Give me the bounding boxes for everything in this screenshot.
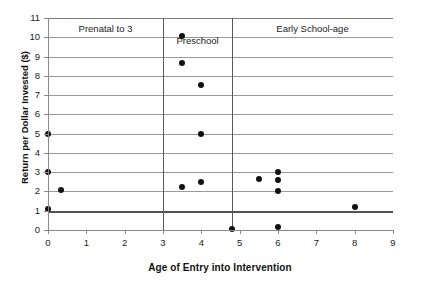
data-point [275,177,281,183]
reference-line-breakeven [48,211,393,213]
region-label-early-school-age: Early School-age [276,24,348,34]
y-tick-mark-8 [44,76,48,77]
y-tick-mark-3 [44,172,48,173]
data-point [352,204,358,210]
x-tick-mark-6 [278,230,279,234]
plot-area: Prenatal to 3PreschoolEarly School-age [48,18,393,230]
y-axis-title: Return per Dollar Invested ($) [19,38,30,198]
y-tick-mark-6 [44,114,48,115]
data-point [179,60,185,66]
y-tick-mark-4 [44,153,48,154]
x-tick-label-8: 8 [345,238,365,248]
x-tick-mark-7 [316,230,317,234]
x-tick-label-3: 3 [153,238,173,248]
x-tick-mark-4 [201,230,202,234]
data-point [256,176,262,182]
x-tick-mark-9 [393,230,394,234]
region-label-prenatal-to-3: Prenatal to 3 [79,24,133,34]
data-point [275,188,281,194]
gridline-y-7 [48,95,393,96]
y-tick-mark-5 [44,134,48,135]
gridline-y-6 [48,114,393,115]
data-point [198,82,204,88]
x-tick-mark-1 [86,230,87,234]
data-point [179,184,185,190]
gridline-y-5 [48,134,393,135]
y-axis-line [48,18,49,231]
x-axis-line [48,230,394,231]
y-tick-mark-9 [44,57,48,58]
gridline-y-10 [48,37,393,38]
y-tick-mark-11 [44,18,48,19]
gridline-y-2 [48,191,393,192]
x-tick-mark-0 [48,230,49,234]
gridline-y-4 [48,153,393,154]
y-tick-label-11: 11 [18,13,40,23]
x-tick-mark-2 [125,230,126,234]
data-point [275,169,281,175]
x-tick-mark-5 [240,230,241,234]
gridline-y-9 [48,57,393,58]
x-tick-label-1: 1 [76,238,96,248]
scatter-chart-figure: Prenatal to 3PreschoolEarly School-age 0… [0,0,440,284]
x-axis-title: Age of Entry into Intervention [0,262,440,273]
region-divider-1 [163,18,164,230]
data-point [58,187,64,193]
data-point [198,131,204,137]
x-tick-mark-3 [163,230,164,234]
x-tick-label-7: 7 [306,238,326,248]
x-tick-label-4: 4 [191,238,211,248]
x-tick-label-5: 5 [230,238,250,248]
gridline-y-3 [48,172,393,173]
x-tick-mark-8 [355,230,356,234]
y-tick-mark-10 [44,37,48,38]
x-tick-label-2: 2 [115,238,135,248]
x-tick-label-9: 9 [383,238,403,248]
data-point [198,179,204,185]
gridline-y-11 [48,18,393,19]
region-divider-2 [232,18,233,230]
x-tick-label-0: 0 [38,238,58,248]
y-tick-mark-7 [44,95,48,96]
y-tick-label-0: 0 [18,225,40,235]
y-tick-mark-1 [44,211,48,212]
y-tick-label-1: 1 [18,206,40,216]
y-tick-mark-2 [44,191,48,192]
x-tick-label-6: 6 [268,238,288,248]
gridline-y-8 [48,76,393,77]
